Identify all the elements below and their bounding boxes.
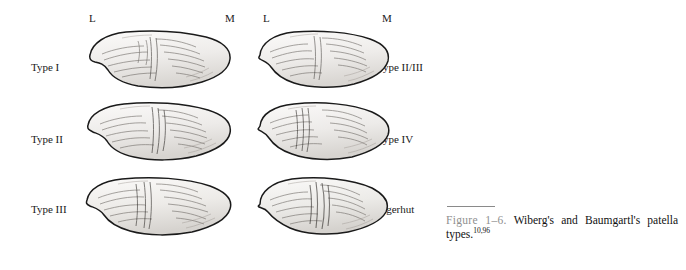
caption-rule (447, 206, 495, 207)
patella-illustration-type-iii (78, 176, 238, 238)
patella-illustration-jagerhut (252, 176, 394, 238)
patella-illustration-type-i (78, 29, 238, 91)
figure-caption-block: Figure 1–6. Wiberg's and Baumgartl's pat… (446, 206, 678, 241)
label-type-i: Type I (31, 61, 59, 73)
patella-illustration-type-iv (252, 101, 394, 163)
label-type-ii: Type II (31, 133, 63, 145)
figure-container: L M L M Type I Type II Type III Type II/… (0, 0, 686, 270)
figure-caption-superscript: 10,96 (473, 226, 490, 235)
column-2-lateral-marker: L (263, 12, 270, 24)
figure-number: Figure 1–6. (446, 214, 507, 226)
figure-caption-text: Figure 1–6. Wiberg's and Baumgartl's pat… (446, 213, 678, 241)
label-type-iii: Type III (31, 203, 67, 215)
column-1-medial-marker: M (225, 12, 235, 24)
patella-illustration-type-ii (78, 101, 238, 163)
column-1-lateral-marker: L (89, 12, 96, 24)
patella-illustration-type-ii-iii (252, 29, 394, 91)
column-2-medial-marker: M (382, 12, 392, 24)
